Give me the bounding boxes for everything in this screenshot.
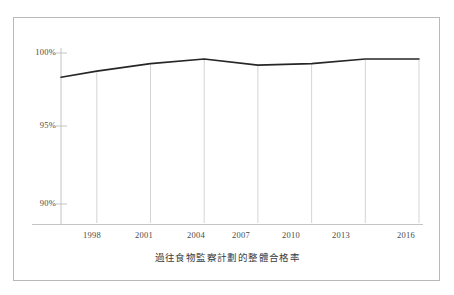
x-tick-label-2004: 2004	[176, 230, 216, 240]
y-tick-label-95: 95%	[18, 120, 56, 130]
x-tick-label-2010: 2010	[271, 230, 311, 240]
x-tick-label-2007: 2007	[221, 230, 261, 240]
line-chart-svg	[14, 18, 441, 282]
y-tick-label-100: 100%	[18, 47, 56, 57]
chart-plot-area: 100% 95% 90% 1998 2001 2004 2007 2010 20…	[14, 18, 441, 282]
x-tick-label-2013: 2013	[321, 230, 361, 240]
x-tick-label-2016: 2016	[386, 230, 426, 240]
figure-frame: 100% 95% 90% 1998 2001 2004 2007 2010 20…	[13, 17, 440, 281]
x-tick-label-1998: 1998	[72, 230, 112, 240]
x-tick-label-2001: 2001	[124, 230, 164, 240]
chart-caption: 過往食物監察計劃的整體合格率	[14, 250, 441, 264]
vertical-gridlines	[97, 60, 419, 223]
y-tick-label-90: 90%	[18, 198, 56, 208]
